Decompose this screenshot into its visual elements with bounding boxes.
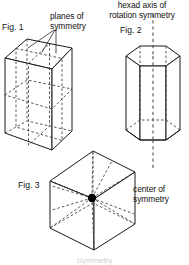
fig-2-hexagonal-prism — [126, 14, 180, 168]
fig-1-label: Fig. 1 — [2, 23, 24, 33]
fig2-front-right-face — [166, 56, 180, 140]
fig-3-label: Fig. 3 — [18, 181, 40, 191]
fig-2-label: Fig. 2 — [120, 26, 142, 36]
center-of-symmetry-label: center of symmetry — [133, 185, 169, 204]
hexad-axis-label: hexad axis of rotation symmetry — [96, 1, 188, 20]
fig-1-prism — [5, 39, 72, 150]
fig2-front-left-face — [126, 56, 140, 140]
center-of-symmetry-dot — [88, 194, 96, 202]
planes-of-symmetry-label: planes of symmetry — [50, 12, 86, 31]
bottom-caption: Symmetry — [0, 256, 189, 265]
fig-3-cube — [50, 151, 135, 250]
